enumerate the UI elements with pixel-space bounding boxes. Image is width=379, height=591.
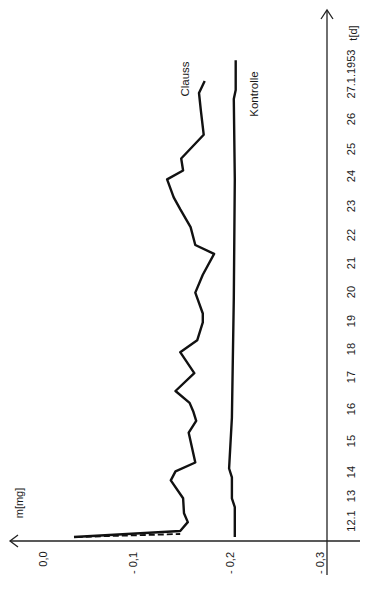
x-tick-label: 27.1.1953 [345, 39, 357, 109]
series-label-kontrolle: Kontrolle [248, 62, 260, 126]
series-line-kontrolle [229, 60, 236, 537]
x-tick-label: 24 [345, 161, 357, 191]
y-tick-label: - 0,1 [127, 543, 139, 583]
x-tick-label: 15 [345, 426, 357, 456]
x-tick-label: 18 [345, 334, 357, 364]
x-tick-label: 21 [345, 248, 357, 278]
x-tick-label: 22 [345, 220, 357, 250]
t-axis [321, 10, 333, 575]
y-tick-label: - 0,3 [314, 543, 326, 583]
x-tick-label: 20 [345, 277, 357, 307]
y-tick-label: - 0,2 [224, 543, 236, 583]
x-tick-label: 16 [345, 394, 357, 424]
x-tick-label: 14 [345, 457, 357, 487]
m-axis [10, 535, 360, 547]
x-tick-label: 17 [345, 362, 357, 392]
series-layer [74, 60, 236, 537]
series-line-clauss [74, 81, 214, 537]
x-tick-label: 25 [345, 134, 357, 164]
x-tick-label: 23 [345, 191, 357, 221]
y-tick-label: 0,0 [37, 542, 49, 576]
x-tick-label: 19 [345, 306, 357, 336]
y-axis-title: m[mg] [13, 486, 25, 520]
series-label-clauss: Clauss [179, 54, 191, 104]
